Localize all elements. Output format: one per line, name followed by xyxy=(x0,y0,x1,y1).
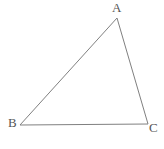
vertex-label-b: B xyxy=(8,116,17,129)
triangle-shape xyxy=(20,18,148,125)
triangle-drawing xyxy=(0,0,164,149)
vertex-label-a: A xyxy=(112,1,121,14)
triangle-figure: A B C xyxy=(0,0,164,149)
vertex-label-c: C xyxy=(149,121,158,134)
